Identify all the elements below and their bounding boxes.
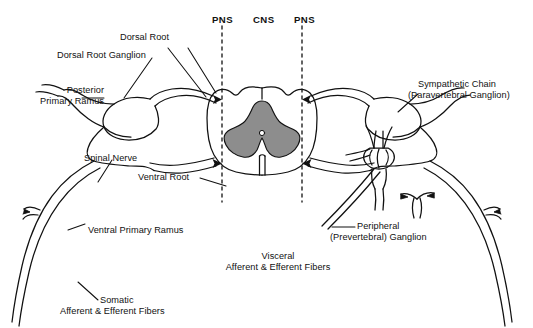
leader-dorsal-root (188, 48, 216, 93)
ganglion-fiber-2 (378, 149, 380, 168)
chain-up-left (366, 126, 374, 148)
label-dorsal-root: Dorsal Root (120, 32, 169, 43)
chain-to-nerve-lower (350, 155, 370, 161)
spinal-nerve-right (370, 127, 437, 171)
dorsal-root-right (308, 88, 374, 106)
chain-down-right (383, 169, 386, 189)
label-ventral-root: Ventral Root (138, 172, 189, 183)
chain-lower-right (383, 189, 384, 210)
cutaneous-branch-right (484, 207, 501, 219)
region-label-pns-left: PNS (212, 14, 233, 25)
dorsal-root-right-lower (308, 95, 369, 106)
leader-drg (124, 58, 152, 98)
leader-somatic (78, 282, 98, 300)
ganglion-fiber-3 (386, 150, 388, 165)
dorsal-root-right-arrow (302, 95, 311, 104)
cut-branch-left-1 (24, 207, 40, 210)
vpr-right-outer (430, 161, 512, 322)
label-visceral-fibers-line2: Afferent & Efferent Fibers (198, 262, 358, 273)
ventral-fissure-apex (260, 155, 266, 156)
drg-left-inner-fold (104, 127, 131, 137)
label-somatic-fibers-line1: Somatic (100, 295, 134, 306)
gray-matter-butterfly (224, 101, 299, 157)
dorsal-root-left-lower (155, 95, 216, 106)
peripheral-prevertebral-ganglion (401, 193, 434, 218)
chain-up-right (384, 127, 392, 148)
splanchnic-fiber-upper (322, 169, 374, 226)
dorsal-root-left-arrow (213, 95, 222, 104)
label-posterior-primary-ramus-line2: Primary Ramus (8, 96, 104, 107)
region-label-pns-right: PNS (294, 14, 315, 25)
cut-branch-right-tip (494, 209, 501, 214)
label-spinal-nerve: Spinal Nerve (84, 153, 137, 164)
prevertebral-branch-right (420, 198, 422, 218)
leader-vpr (68, 224, 85, 230)
label-sympathetic-chain-line2: (Paravertebral Ganglion) (408, 90, 510, 101)
ventral-root-right-lower (308, 166, 370, 173)
label-dorsal-root-ganglion: Dorsal Root Ganglion (57, 50, 146, 61)
label-sympathetic-chain-line1: Sympathetic Chain (418, 79, 496, 90)
label-ventral-primary-ramus: Ventral Primary Ramus (88, 225, 184, 236)
diagram-page: PNS CNS PNS Dorsal Root Dorsal Root Gang… (0, 0, 533, 328)
cut-branch-left-tip (23, 209, 30, 214)
prevertebral-branch-left (413, 198, 415, 218)
prevertebral-tip-1 (401, 194, 408, 199)
region-label-cns: CNS (253, 14, 274, 25)
prevertebral-tip-2 (427, 193, 434, 198)
cut-branch-right-2 (486, 215, 501, 219)
ventral-root-left (150, 158, 216, 173)
label-visceral-fibers-line1: Visceral (218, 251, 338, 262)
vpr-left-inner (19, 168, 100, 326)
cut-branch-left-2 (23, 215, 38, 219)
label-peripheral-ganglion-line2: (Prevertebral) Ganglion (330, 232, 427, 243)
drg-right-inner-fold (393, 127, 420, 137)
ventral-root-left-upper (150, 158, 214, 165)
cut-branch-right-1 (484, 207, 500, 210)
spinal-nerve-right-lower (370, 127, 437, 171)
gray-matter-shape (224, 101, 299, 157)
label-peripheral-ganglion-line1: Peripheral (357, 221, 399, 232)
vpr-right-inner (424, 168, 505, 326)
central-canal (259, 130, 264, 135)
label-posterior-primary-ramus-line1: Posterior (18, 85, 104, 96)
vpr-left-outer (12, 161, 94, 322)
cutaneous-branch-left (23, 207, 40, 219)
ventral-primary-ramus-left (12, 161, 100, 326)
sympathetic-chain-ganglion (346, 126, 394, 210)
ventral-primary-ramus-right (424, 161, 512, 326)
ramus-communicans-1 (374, 131, 376, 148)
chain-to-nerve-upper (346, 149, 370, 155)
ganglion-fiber-1 (370, 150, 372, 165)
ventral-median-fissure (260, 156, 266, 175)
label-somatic-fibers-line2: Afferent & Efferent Fibers (60, 306, 165, 317)
chain-lower-left (375, 189, 376, 210)
leader-dorsal-root-b (168, 48, 206, 97)
